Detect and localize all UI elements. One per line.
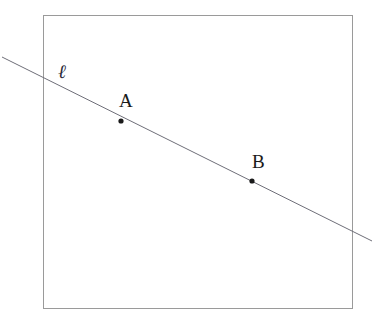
point-b-label: B (252, 152, 265, 171)
figure-canvas (0, 0, 380, 322)
line-ell (2, 57, 372, 241)
geometry-figure: ℓ A B (0, 0, 380, 322)
point-a-dot (118, 118, 123, 123)
point-b-dot (249, 178, 254, 183)
bounding-rectangle (44, 16, 353, 309)
line-ell-label: ℓ (58, 62, 66, 81)
point-a-label: A (119, 91, 133, 110)
